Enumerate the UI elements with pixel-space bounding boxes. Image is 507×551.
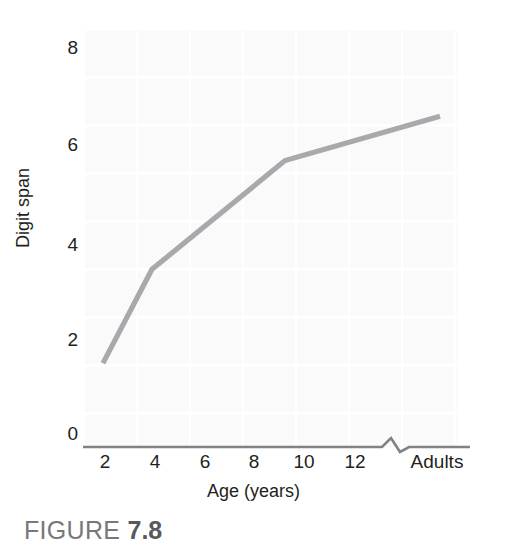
y-tick-2: 2	[52, 330, 78, 349]
x-axis-title: Age (years)	[0, 481, 507, 501]
x-tick-2: 2	[100, 452, 111, 471]
x-tick-10: 10	[293, 452, 314, 471]
figure-caption-number: 7.8	[128, 516, 163, 544]
x-tick-4: 4	[150, 452, 161, 471]
y-tick-labels: 8 6 4 2 0	[52, 0, 78, 551]
y-tick-0: 0	[52, 424, 78, 443]
digit-span-line-series	[83, 28, 458, 447]
data-line	[103, 116, 440, 363]
y-tick-8: 8	[52, 38, 78, 57]
figure-container: 8 6 4 2 0 2 4 6 8 10 12 Adults Digit spa…	[0, 0, 507, 551]
y-tick-6: 6	[52, 135, 78, 154]
y-tick-4: 4	[52, 235, 78, 254]
figure-caption: FIGURE 7.8	[24, 516, 162, 544]
figure-caption-prefix: FIGURE	[24, 516, 120, 544]
plot-area	[83, 28, 458, 447]
y-axis-title: Digit span	[13, 148, 33, 268]
x-tick-adults: Adults	[411, 452, 464, 471]
x-tick-6: 6	[200, 452, 211, 471]
x-tick-12: 12	[344, 452, 365, 471]
x-tick-8: 8	[249, 452, 260, 471]
